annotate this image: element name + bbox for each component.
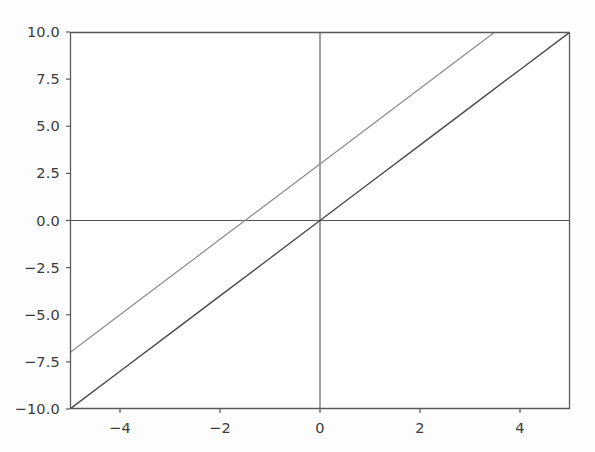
x-tick-label: −4 bbox=[109, 420, 131, 436]
y-tick-label: 0.0 bbox=[0, 213, 60, 229]
x-tick-label: −2 bbox=[209, 420, 231, 436]
plot-canvas bbox=[0, 0, 595, 452]
y-tick-label: 2.5 bbox=[0, 165, 60, 181]
y-tick-label: −5.0 bbox=[0, 307, 60, 323]
y-tick-label: 7.5 bbox=[0, 71, 60, 87]
y-axis-tick-marks bbox=[66, 32, 70, 409]
y-tick-label: −2.5 bbox=[0, 260, 60, 276]
x-tick-label: 4 bbox=[515, 420, 524, 436]
y-tick-label: −10.0 bbox=[0, 401, 60, 417]
y-tick-label: 5.0 bbox=[0, 118, 60, 134]
y-tick-label: −7.5 bbox=[0, 354, 60, 370]
x-tick-label: 2 bbox=[415, 420, 424, 436]
chart-figure: 10.07.55.02.50.0−2.5−5.0−7.5−10.0 −4−202… bbox=[0, 0, 595, 452]
y-tick-label: 10.0 bbox=[0, 24, 60, 40]
x-axis-tick-marks bbox=[120, 409, 520, 413]
x-tick-label: 0 bbox=[315, 420, 324, 436]
